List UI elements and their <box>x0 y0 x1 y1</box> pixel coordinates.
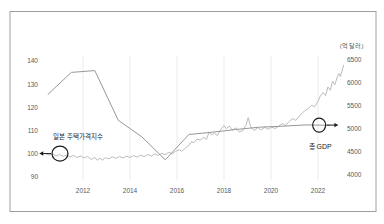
left-tick-label: 110 <box>28 127 39 134</box>
right-tick-label: 4500 <box>347 148 362 155</box>
left-tick-label: 100 <box>27 150 38 157</box>
x-tick-label: 2016 <box>170 187 185 194</box>
left-tick-label: 120 <box>27 104 38 111</box>
x-tick-label: 2020 <box>264 187 279 194</box>
chart-panel: 201220142016201820202022 901001101201301… <box>0 0 384 224</box>
left-tick-label: 130 <box>27 81 38 88</box>
right-tick-label: 6000 <box>347 79 362 86</box>
right-tick-label: 4000 <box>347 171 362 178</box>
left-tick-label: 140 <box>27 57 38 64</box>
x-tick-label: 2022 <box>311 187 326 194</box>
right-tick-label: 5000 <box>347 125 362 132</box>
housing-label: 일본 주택가격지수 <box>53 132 103 141</box>
x-tick-label: 2014 <box>123 187 138 194</box>
x-tick-label: 2012 <box>76 187 91 194</box>
right-tick-label: 5500 <box>347 102 362 109</box>
right-axis-unit-label: (억 달러) <box>340 42 364 50</box>
chart-canvas: 201220142016201820202022 901001101201301… <box>0 0 384 224</box>
x-tick-label: 2018 <box>217 187 232 194</box>
left-tick-label: 90 <box>31 173 39 180</box>
gdp-label: 총 GDP <box>309 142 332 150</box>
chart-frame <box>10 12 376 212</box>
right-tick-label: 6500 <box>347 56 362 63</box>
